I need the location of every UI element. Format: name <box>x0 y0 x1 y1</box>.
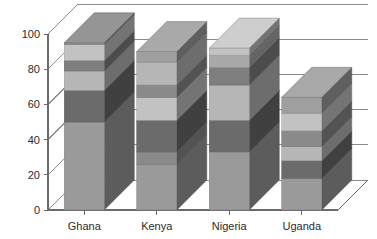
x-axis-category-label: Uganda <box>282 220 321 232</box>
bar-segment-front-face <box>64 45 104 61</box>
y-axis-tick-label: 100 <box>22 28 40 40</box>
bar-segment-front-face <box>137 97 177 120</box>
bar-kenya[interactable] <box>137 22 207 210</box>
bar-segment-front-face <box>137 85 177 97</box>
bar-segment-front-face <box>137 152 177 164</box>
bar-segment-front-face <box>209 120 249 152</box>
bar-segment-front-face <box>209 67 249 85</box>
x-axis-category-label: Kenya <box>141 220 173 232</box>
y-axis-tick-label: 80 <box>28 63 40 75</box>
bar-segment-front-face <box>282 97 322 113</box>
bar-ghana[interactable] <box>64 13 134 210</box>
bar-nigeria[interactable] <box>209 18 279 210</box>
y-axis-tick-label: 20 <box>28 169 40 181</box>
bar-segment-front-face <box>282 131 322 147</box>
y-axis-tick-label: 0 <box>34 204 40 216</box>
bar-segment-front-face <box>64 90 104 122</box>
bar-segment-front-face <box>64 43 104 45</box>
bar-segment-front-face <box>209 152 249 210</box>
bar-segment-front-face <box>282 113 322 131</box>
x-axis-category-label: Nigeria <box>212 220 248 232</box>
bar-segment-front-face <box>209 48 249 55</box>
bar-segment-front-face <box>137 120 177 152</box>
stacked-bar-3d-chart: 020406080100 GhanaKenyaNigeriaUganda <box>0 0 377 239</box>
bar-segment-front-face <box>64 60 104 71</box>
x-axis-category-label: Ghana <box>68 220 102 232</box>
y-axis-tick-label: 40 <box>28 134 40 146</box>
bar-segment-front-face <box>137 52 177 63</box>
bar-segment-front-face <box>137 164 177 210</box>
bar-segment-front-face <box>137 62 177 85</box>
bar-segment-front-face <box>282 178 322 210</box>
bar-segment-front-face <box>64 71 104 90</box>
bar-uganda[interactable] <box>282 67 352 210</box>
bar-segment-front-face <box>209 55 249 67</box>
bar-segment-front-face <box>209 85 249 120</box>
y-axis-tick-label: 60 <box>28 98 40 110</box>
chart-container: 020406080100 GhanaKenyaNigeriaUganda <box>0 0 377 239</box>
bar-segment-front-face <box>282 161 322 179</box>
bar-segment-front-face <box>282 147 322 161</box>
bar-segment-front-face <box>64 122 104 210</box>
